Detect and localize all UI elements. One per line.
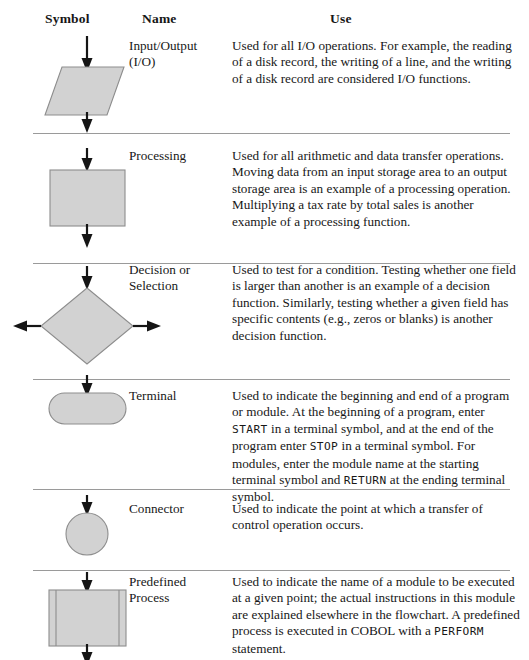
name-line-1: Connector — [129, 501, 229, 517]
name-line-2: Process — [129, 590, 229, 606]
row-use-processing: Used for all arithmetic and data transfe… — [232, 148, 520, 230]
table-row: Connector Used to indicate the point at … — [0, 489, 529, 571]
code-keyword: PERFORM — [434, 625, 484, 638]
use-text-terminal: Used to indicate the beginning and end o… — [232, 388, 509, 504]
row-name-input-output: Input/Output (I/O) — [129, 38, 229, 69]
table-row: Terminal Used to indicate the beginning … — [0, 379, 529, 490]
name-line-1: Decision or — [129, 262, 229, 278]
use-text-predefined-process: Used to indicate the name of a module to… — [232, 574, 520, 656]
name-line-1: Input/Output — [129, 38, 229, 54]
use-text-run: Used to indicate the beginning and end o… — [232, 388, 509, 419]
name-line-1: Processing — [129, 148, 229, 164]
name-line-1: Terminal — [129, 388, 229, 404]
row-name-predefined-process: Predefined Process — [129, 574, 229, 605]
row-use-input-output: Used for all I/O operations. For example… — [232, 38, 520, 87]
name-line-2: (I/O) — [129, 54, 229, 70]
row-name-connector: Connector — [129, 501, 229, 517]
table-row: Decision or Selection Used to test for a… — [0, 264, 529, 380]
table-row: Input/Output (I/O) Used for all I/O oper… — [0, 0, 529, 134]
use-text-run: statement. — [232, 641, 286, 656]
table-row: Predefined Process Used to indicate the … — [0, 570, 529, 660]
row-name-decision: Decision or Selection — [129, 262, 229, 293]
name-line-1: Predefined — [129, 574, 229, 590]
row-name-processing: Processing — [129, 148, 229, 164]
code-keyword: START — [232, 423, 268, 436]
row-use-connector: Used to indicate the point at which a tr… — [232, 501, 520, 534]
code-keyword: STOP — [310, 440, 339, 453]
row-use-decision: Used to test for a condition. Testing wh… — [232, 262, 520, 344]
flowchart-symbol-reference-table: Symbol Name Use Input/Output (I/O) Used … — [0, 0, 529, 660]
name-line-2: Selection — [129, 278, 229, 294]
row-name-terminal: Terminal — [129, 388, 229, 404]
row-use-predefined-process: Used to indicate the name of a module to… — [232, 574, 520, 657]
code-keyword: RETURN — [344, 474, 387, 487]
table-row: Processing Used for all arithmetic and d… — [0, 134, 529, 264]
